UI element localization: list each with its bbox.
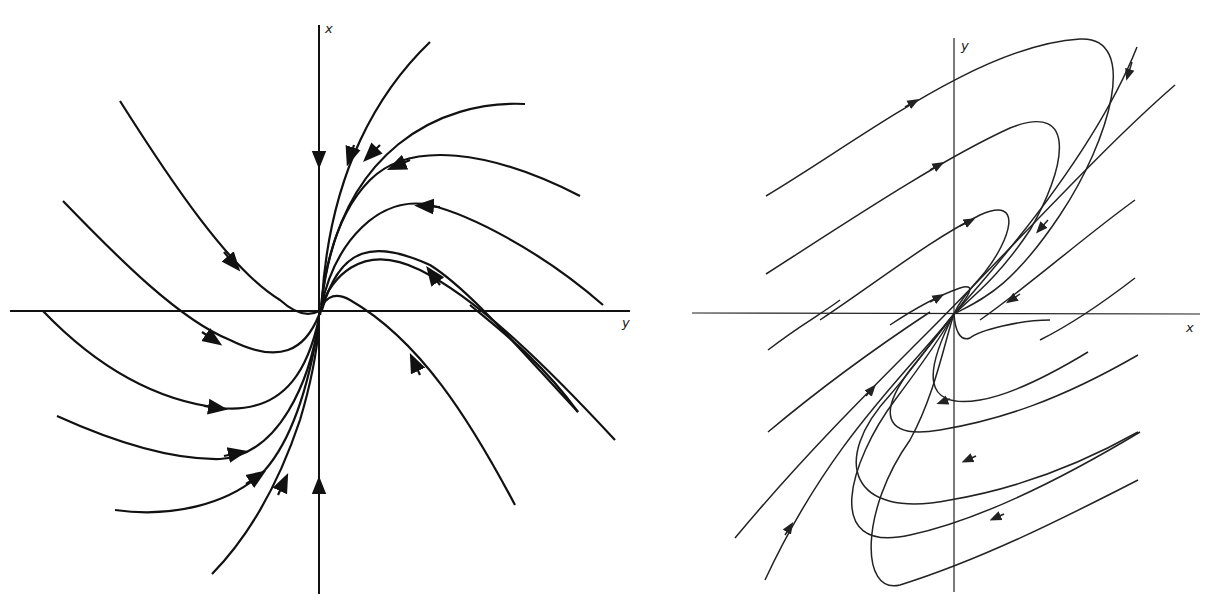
trajectory-arrow	[995, 514, 1004, 518]
trajectory	[856, 314, 1138, 504]
trajectory	[120, 101, 319, 314]
horizontal-axis-label: y	[621, 315, 630, 330]
right-phase-portrait: y x	[680, 0, 1208, 601]
trajectory-arrow	[960, 221, 970, 226]
trajectory	[320, 296, 515, 505]
trajectory	[63, 201, 319, 352]
trajectory-arrow	[204, 406, 218, 408]
trajectory	[768, 312, 930, 432]
right-trajectories	[735, 39, 1175, 586]
horizontal-axis-label: x	[1185, 320, 1194, 335]
trajectory-arrow	[246, 476, 258, 484]
left-trajectories	[43, 42, 615, 574]
vertical-axis-label: y	[960, 38, 969, 53]
left-phase-portrait-svg: x y	[0, 0, 640, 601]
trajectory	[57, 320, 319, 459]
trajectory	[322, 251, 578, 412]
trajectory-arrow	[1011, 294, 1020, 300]
trajectory	[322, 42, 430, 300]
trajectory	[766, 122, 1059, 314]
trajectory-arrow	[414, 362, 420, 375]
vertical-axis-label: x	[324, 21, 333, 36]
trajectory-arrow	[424, 206, 440, 207]
trajectory	[212, 325, 319, 574]
trajectory	[320, 259, 615, 440]
trajectory	[768, 300, 840, 350]
trajectory-arrow	[202, 332, 214, 340]
trajectory-arrow	[370, 145, 380, 155]
trajectory	[1040, 278, 1135, 340]
trajectory-arrow	[942, 399, 950, 402]
trajectory	[766, 39, 1113, 314]
trajectory-arrow	[930, 297, 939, 302]
trajectory-arrow	[1040, 220, 1048, 229]
trajectory-arrow	[278, 482, 284, 495]
right-phase-portrait-svg: y x	[680, 0, 1208, 601]
trajectory	[820, 210, 1009, 320]
trajectory-arrow	[866, 389, 872, 396]
trajectory	[43, 311, 319, 409]
left-phase-portrait: x y	[0, 0, 640, 601]
trajectory	[954, 314, 1050, 339]
trajectory-arrow	[967, 456, 976, 460]
trajectory-arrow	[930, 165, 939, 170]
trajectory	[321, 204, 603, 308]
trajectory	[871, 314, 1138, 586]
